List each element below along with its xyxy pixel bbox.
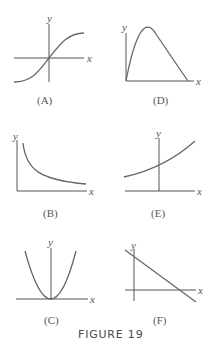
panel-d: y x (D)	[121, 21, 201, 107]
panel-c-y-label: y	[47, 236, 53, 248]
panel-d-curve	[126, 27, 188, 81]
panel-e-label: (E)	[151, 207, 165, 220]
panel-b-curve	[23, 143, 86, 184]
panel-f-line	[125, 250, 196, 302]
panel-a: y x (A)	[14, 12, 92, 107]
panel-b-label: (B)	[43, 207, 58, 220]
panel-f-label: (F)	[153, 314, 167, 327]
figure-19: y x (A) y x (D) y x (B) y x (E) y x (C)	[0, 0, 211, 362]
panel-c-label: (C)	[44, 314, 59, 327]
panel-d-label: (D)	[153, 94, 169, 107]
panel-a-label: (A)	[37, 94, 53, 107]
panel-a-x-label: x	[86, 52, 92, 64]
panel-c: y x (C)	[16, 236, 95, 327]
panel-a-y-label: y	[46, 12, 52, 24]
panel-b-x-label: x	[88, 185, 94, 197]
panel-f: y x (F)	[125, 239, 203, 327]
panel-d-y-label: y	[121, 21, 127, 33]
panel-b-y-label: y	[12, 130, 18, 142]
panel-c-x-label: x	[89, 293, 95, 305]
panel-e-y-label: y	[155, 127, 161, 139]
panel-f-x-label: x	[197, 284, 203, 296]
panel-d-x-label: x	[195, 75, 201, 87]
panel-b: y x (B)	[12, 130, 94, 220]
panel-f-y-label: y	[130, 239, 136, 251]
panel-e: y x (E)	[124, 127, 202, 220]
panel-e-x-label: x	[196, 185, 202, 197]
figure-caption: FIGURE 19	[78, 328, 143, 341]
